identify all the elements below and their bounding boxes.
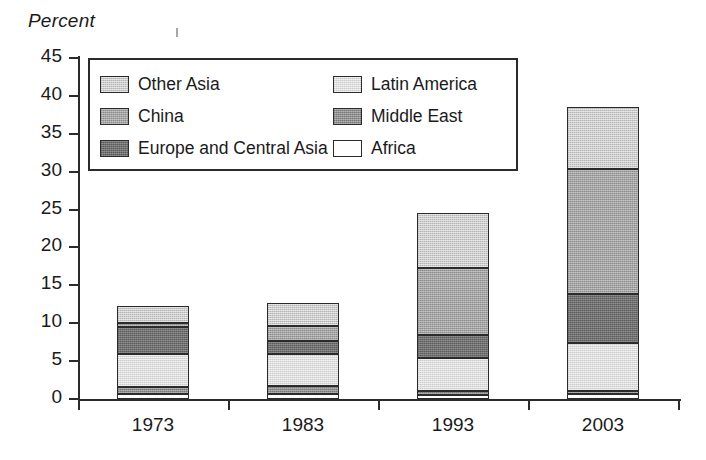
y-axis-tick: 15: [69, 284, 78, 286]
legend-swatch-icon: [333, 140, 362, 157]
y-axis-tick: 5: [69, 360, 78, 362]
legend-swatch-icon: [100, 108, 129, 125]
bar-2003: [567, 58, 639, 399]
y-axis-tick: 0: [69, 398, 78, 400]
y-axis-tick: 35: [69, 133, 78, 135]
legend-item-label: Europe and Central Asia: [138, 139, 328, 158]
bar-segment-1983-africa: [267, 394, 339, 399]
bar-segment-1973-europe-and-central-asia: [117, 327, 189, 354]
legend-swatch-icon: [100, 76, 129, 93]
y-axis-tick: 40: [69, 95, 78, 97]
y-axis-tick: 45: [69, 57, 78, 59]
x-axis-end-tick: [78, 399, 80, 410]
legend-swatch-icon: [333, 108, 362, 125]
bar-segment-1973-middle-east: [117, 387, 189, 394]
legend-item-africa[interactable]: Africa: [333, 132, 513, 164]
y-axis-tick-label: 15: [41, 273, 62, 293]
x-axis-label-1983: 1983: [228, 414, 378, 436]
bar-segment-1993-africa: [417, 395, 489, 399]
bar-segment-1993-latin-america: [417, 358, 489, 391]
bar-segment-1973-africa: [117, 394, 189, 399]
legend-swatch-icon: [100, 140, 129, 157]
legend-item-label: Other Asia: [138, 75, 220, 94]
bar-segment-1993-europe-and-central-asia: [417, 335, 489, 358]
y-axis-tick: 20: [69, 246, 78, 248]
bar-segment-1983-middle-east: [267, 386, 339, 394]
bar-segment-2003-europe-and-central-asia: [567, 294, 639, 342]
legend-item-other-asia[interactable]: Other Asia: [100, 68, 330, 100]
x-axis-label-1993: 1993: [378, 414, 528, 436]
legend-item-label: Latin America: [371, 75, 477, 94]
y-axis-tick-label: 0: [51, 387, 62, 407]
y-axis-tick-label: 20: [41, 235, 62, 255]
y-axis-tick: 30: [69, 171, 78, 173]
y-axis-tick-label: 40: [41, 84, 62, 104]
y-axis-title: Percent: [28, 10, 95, 32]
y-axis-tick-label: 30: [41, 160, 62, 180]
y-axis-tick: 25: [69, 209, 78, 211]
y-axis-tick-label: 35: [41, 122, 62, 142]
y-axis-tick-label: 5: [51, 349, 62, 369]
bar-segment-1993-china: [417, 268, 489, 335]
legend-column-right: Latin AmericaMiddle EastAfrica: [333, 68, 513, 164]
bar-segment-2003-africa: [567, 394, 639, 399]
bar-segment-1993-middle-east: [417, 391, 489, 395]
x-axis-label-1973: 1973: [78, 414, 228, 436]
bar-segment-2003-latin-america: [567, 343, 639, 391]
x-axis-end-tick: [678, 399, 680, 410]
legend-item-label: Middle East: [371, 107, 462, 126]
legend-item-china[interactable]: China: [100, 100, 330, 132]
bar-segment-1973-latin-america: [117, 354, 189, 387]
bar-segment-1983-china: [267, 326, 339, 341]
legend-swatch-icon: [333, 76, 362, 93]
bar-segment-1973-other-asia: [117, 306, 189, 323]
bar-segment-2003-middle-east: [567, 391, 639, 395]
x-axis-separator: [528, 399, 530, 410]
x-axis-separator: [228, 399, 230, 410]
y-axis-tick-label: 45: [41, 46, 62, 66]
bar-segment-1973-china: [117, 323, 189, 327]
legend-item-middle-east[interactable]: Middle East: [333, 100, 513, 132]
bar-segment-1993-other-asia: [417, 213, 489, 268]
bar-segment-1983-europe-and-central-asia: [267, 341, 339, 355]
stacked-bar-chart: Percent 051015202530354045 Other AsiaChi…: [0, 0, 706, 460]
y-axis-tick-label: 10: [41, 311, 62, 331]
x-axis-label-2003: 2003: [528, 414, 678, 436]
legend-column-left: Other AsiaChinaEurope and Central Asia: [100, 68, 330, 164]
legend: Other AsiaChinaEurope and Central Asia L…: [88, 58, 518, 171]
legend-item-latin-america[interactable]: Latin America: [333, 68, 513, 100]
y-axis-tick-label: 25: [41, 198, 62, 218]
y-axis-tick: 10: [69, 322, 78, 324]
legend-item-europe-and-central-asia[interactable]: Europe and Central Asia: [100, 132, 330, 164]
x-axis-separator: [378, 399, 380, 410]
legend-item-label: Africa: [371, 139, 416, 158]
bar-segment-1983-other-asia: [267, 303, 339, 326]
bar-segment-1983-latin-america: [267, 354, 339, 386]
bar-segment-2003-china: [567, 169, 639, 295]
legend-item-label: China: [138, 107, 184, 126]
bar-segment-2003-other-asia: [567, 107, 639, 169]
scan-artifact: [176, 28, 178, 37]
